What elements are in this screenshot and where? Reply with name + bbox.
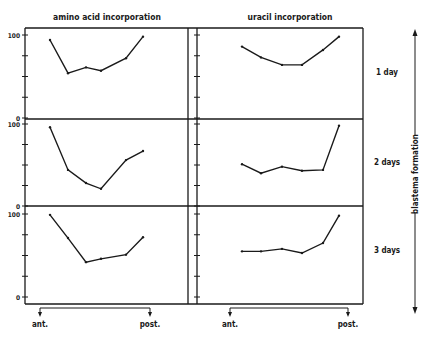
data-line (242, 216, 339, 253)
data-point (142, 236, 144, 238)
y-label-100: 100 (8, 32, 20, 40)
row-label-3-days: 3 days (374, 246, 400, 255)
data-point (142, 150, 144, 152)
side-label-blastema-formation: blastema formation (411, 134, 420, 214)
data-point (338, 124, 340, 126)
data-point (85, 66, 87, 68)
data-point (241, 163, 243, 165)
data-point (260, 250, 262, 252)
data-point (49, 39, 51, 41)
data-point (85, 182, 87, 184)
data-line (242, 126, 339, 174)
y-label-100: 100 (8, 211, 20, 219)
data-point (322, 169, 324, 171)
data-point (322, 49, 324, 51)
data-point (125, 57, 127, 59)
data-point (100, 188, 102, 190)
y-label-0: 0 (16, 203, 20, 211)
data-point (49, 126, 51, 128)
data-point (67, 72, 69, 74)
data-point (241, 45, 243, 47)
x-end-label-left: post. (140, 320, 161, 329)
row-label-1-day: 1 day (376, 68, 398, 77)
data-series (49, 35, 340, 263)
x-axis-bracket-right (228, 308, 350, 317)
row-label-2-days: 2 days (374, 158, 400, 167)
y-axis-labels: 100010001000 (8, 32, 20, 302)
data-point (125, 253, 127, 255)
x-start-label-left: ant. (32, 320, 48, 329)
data-point (125, 159, 127, 161)
y-label-0: 0 (16, 294, 20, 302)
data-point (281, 165, 283, 167)
data-point (49, 214, 51, 216)
data-point (100, 69, 102, 71)
data-line (242, 37, 339, 65)
chart: amino acid incorporation uracil incorpor… (0, 0, 430, 340)
data-point (281, 248, 283, 250)
data-point (338, 35, 340, 37)
x-axis-bracket-left (38, 308, 152, 317)
data-point (338, 214, 340, 216)
data-point (85, 261, 87, 263)
column-title-uracil: uracil incorporation (247, 12, 332, 22)
data-point (241, 250, 243, 252)
data-point (301, 170, 303, 172)
panel-frame (25, 28, 363, 304)
x-end-label-right: post. (338, 320, 359, 329)
column-title-amino: amino acid incorporation (53, 12, 161, 22)
data-point (142, 35, 144, 37)
data-line (50, 127, 143, 189)
data-point (301, 64, 303, 66)
data-point (301, 252, 303, 254)
data-line (50, 215, 143, 262)
data-point (67, 237, 69, 239)
data-point (260, 56, 262, 58)
data-point (281, 64, 283, 66)
data-point (67, 169, 69, 171)
data-line (50, 37, 143, 74)
y-label-100: 100 (8, 121, 20, 129)
x-start-label-right: ant. (222, 320, 238, 329)
data-point (260, 172, 262, 174)
data-point (322, 242, 324, 244)
data-point (100, 258, 102, 260)
